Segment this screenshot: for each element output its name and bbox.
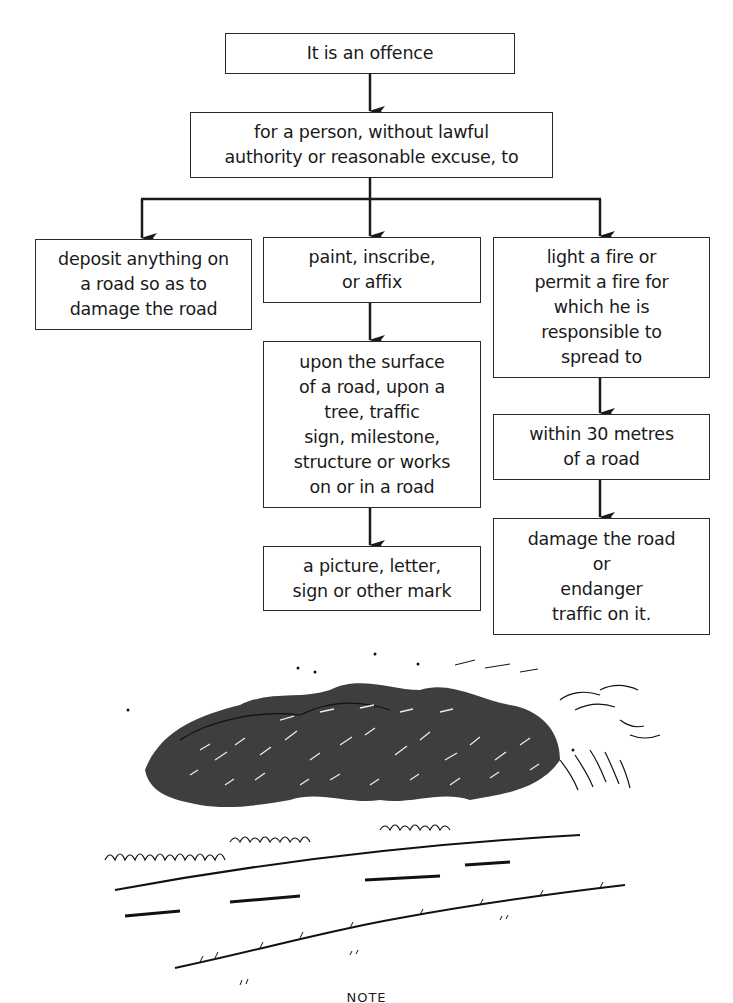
roadside-hedge-illustration bbox=[0, 0, 733, 1003]
note-label: NOTE bbox=[0, 990, 733, 1003]
